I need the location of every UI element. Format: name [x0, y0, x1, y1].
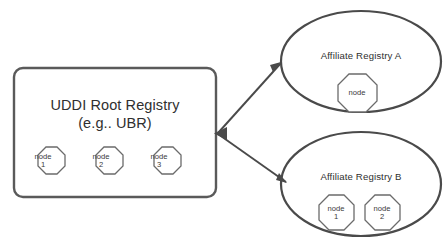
affiliate-registry-a-title: Affiliate Registry A	[281, 50, 441, 61]
affiliate-a-node-name: node	[349, 88, 366, 97]
affiliate-registry-b-title: Affiliate Registry B	[281, 171, 441, 182]
root-node-1-index: 1	[28, 161, 58, 169]
diagram-canvas: UDDI Root Registry (e.g.. UBR) node 1 no…	[0, 0, 447, 245]
root-node-3-index: 3	[144, 161, 174, 169]
root-node-3-label: node 3	[144, 153, 174, 169]
affiliate-b-node-1-label: node 1	[322, 205, 350, 221]
root-registry-title: UDDI Root Registry	[0, 97, 230, 114]
affiliate-a-node-label: node	[343, 89, 371, 97]
root-node-2-label: node 2	[86, 153, 116, 169]
root-registry-box[interactable]	[14, 68, 216, 197]
connector-root-to-affiliate-b[interactable]	[218, 134, 286, 182]
affiliate-b-node-2-index: 2	[368, 213, 396, 221]
affiliate-b-node-1-index: 1	[322, 213, 350, 221]
affiliate-registry-b-ellipse[interactable]	[281, 132, 441, 236]
root-node-2-index: 2	[86, 161, 116, 169]
root-node-1-label: node 1	[28, 153, 58, 169]
root-registry-subtitle: (e.g.. UBR)	[0, 115, 230, 132]
affiliate-b-node-2-label: node 2	[368, 205, 396, 221]
